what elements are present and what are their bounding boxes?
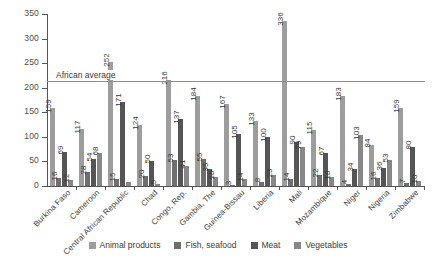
bar[interactable]: 15: [114, 179, 119, 186]
bar-group: 184553518: [195, 14, 218, 186]
bar[interactable]: 20: [143, 176, 148, 186]
bar-group: 183434103: [340, 14, 363, 186]
bar[interactable]: 10: [416, 181, 421, 186]
bar-group: 117285468: [79, 14, 102, 186]
x-tick-mark: [221, 186, 222, 190]
y-tick: 300: [0, 39, 47, 40]
bar-value-label: 133: [247, 112, 256, 126]
bar-value-label: 3: [224, 180, 233, 185]
bar-value-label: 252: [102, 53, 111, 67]
bar-group: 84163653: [369, 14, 392, 186]
legend-item[interactable]: Vegetables: [294, 240, 347, 250]
y-tick-label: 50: [29, 155, 39, 165]
bar-value-label: 18: [207, 171, 216, 180]
bar-value-label: 50: [143, 155, 152, 164]
bar[interactable]: 336: [282, 21, 287, 186]
bar-value-label: 14: [236, 173, 245, 182]
legend-label: Meat: [262, 240, 281, 250]
x-axis-label: Chad: [139, 188, 159, 208]
x-tick-mark: [424, 186, 425, 190]
bar-value-label: 10: [410, 175, 419, 184]
bar[interactable]: 7: [404, 183, 409, 186]
bar-value-label: 20: [137, 170, 146, 179]
bar[interactable]: 3: [230, 185, 235, 186]
bar[interactable]: 16: [56, 178, 61, 186]
bar[interactable]: 53: [387, 160, 392, 186]
bar[interactable]: 54: [91, 159, 96, 186]
bar-value-label: 68: [91, 146, 100, 155]
bar-value-label: 14: [282, 173, 291, 182]
bar-value-label: 16: [369, 172, 378, 181]
y-tick-label: 350: [24, 8, 39, 18]
bar[interactable]: 22: [317, 175, 322, 186]
bar[interactable]: 167: [224, 104, 229, 186]
bar[interactable]: 137: [178, 119, 183, 186]
bar-value-label: 216: [160, 71, 169, 85]
bar[interactable]: 28: [85, 172, 90, 186]
bar-value-label: 79: [294, 141, 303, 150]
bar[interactable]: 183: [340, 96, 345, 186]
x-axis-labels: Burkina FasoCameroonCentral African Repu…: [0, 188, 436, 244]
bar[interactable]: 159: [398, 108, 403, 186]
bar-value-label: 105: [230, 126, 239, 140]
bar[interactable]: 34: [352, 169, 357, 186]
bar-value-label: 100: [259, 128, 268, 142]
bar-value-label: 36: [375, 162, 384, 171]
bar[interactable]: 14: [288, 179, 293, 186]
legend-item[interactable]: Meat: [251, 240, 281, 250]
bar[interactable]: 216: [166, 80, 171, 186]
bar[interactable]: 8: [259, 182, 264, 186]
bar[interactable]: 14: [242, 179, 247, 186]
y-tick: 0: [0, 186, 47, 187]
y-tick-label: 300: [24, 33, 39, 43]
bar[interactable]: 79: [300, 147, 305, 186]
bar-value-label: 53: [381, 153, 390, 162]
legend-item[interactable]: Animal products: [89, 240, 161, 250]
bar[interactable]: 184: [195, 96, 200, 186]
bar[interactable]: 133: [253, 121, 258, 186]
bar-value-label: 167: [218, 95, 227, 109]
x-axis-label: Mali: [287, 188, 304, 205]
bar-value-label: 184: [189, 87, 198, 101]
bar-group: 167310514: [224, 14, 247, 186]
bar-value-label: 15: [108, 172, 117, 181]
y-tick-label: 100: [24, 131, 39, 141]
legend-item[interactable]: Fish, seafood: [174, 240, 236, 250]
bar[interactable]: 18: [213, 177, 218, 186]
average-line: [47, 81, 425, 82]
legend-label: Animal products: [100, 240, 161, 250]
bar[interactable]: 18: [329, 177, 334, 186]
bar[interactable]: 23: [271, 175, 276, 186]
bar-value-label: 124: [131, 116, 140, 130]
bar[interactable]: 5: [155, 184, 160, 186]
y-tick-label: 200: [24, 82, 39, 92]
bar[interactable]: 171: [120, 102, 125, 186]
bar[interactable]: 117: [79, 129, 84, 186]
bar-value-label: 336: [276, 12, 285, 26]
bar-value-label: 117: [73, 120, 82, 133]
x-axis-label: Niger: [342, 188, 362, 208]
x-axis-label: Nigeria: [366, 188, 391, 213]
bar[interactable]: 12: [68, 180, 73, 186]
x-tick-mark: [250, 186, 251, 190]
bar[interactable]: 16: [375, 178, 380, 186]
bar-value-label: 5: [149, 179, 158, 184]
x-tick-mark: [308, 186, 309, 190]
bar[interactable]: 36: [381, 168, 386, 186]
bar[interactable]: 53: [172, 160, 177, 186]
x-axis-label: Liberia: [251, 188, 275, 212]
bar[interactable]: 68: [97, 153, 102, 186]
bar[interactable]: 100: [265, 137, 270, 186]
bar-value-label: 16: [50, 172, 59, 181]
bar[interactable]: [126, 182, 131, 186]
bar[interactable]: 41: [184, 166, 189, 186]
bar[interactable]: 4: [346, 184, 351, 186]
y-tick: 250: [0, 63, 47, 64]
bar-group: 2165313741: [166, 14, 189, 186]
bar-value-label: 28: [79, 166, 88, 175]
x-tick-mark: [395, 186, 396, 190]
y-axis: 050100150200250300350: [0, 14, 47, 186]
bar-value-label: 22: [311, 169, 320, 178]
x-tick-mark: [192, 186, 193, 190]
bar-value-label: 137: [172, 110, 181, 124]
